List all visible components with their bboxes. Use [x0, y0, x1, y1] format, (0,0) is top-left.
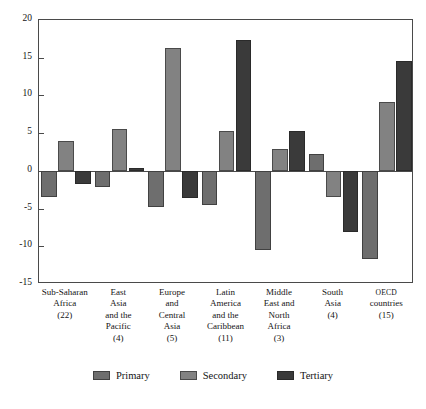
y-axis-tick-label: -5 [2, 203, 32, 213]
chart-legend: PrimarySecondaryTertiary [0, 370, 426, 381]
y-axis-tick-label: 20 [2, 14, 32, 24]
category-label-line: Caribbean [199, 321, 253, 332]
category-label-line: and the [92, 310, 146, 321]
category-label-line: Africa [252, 321, 306, 332]
legend-label: Secondary [203, 370, 247, 381]
bar [148, 171, 164, 207]
category-label-line: (4) [92, 333, 146, 344]
y-axis-tick-label: 15 [2, 52, 32, 62]
x-axis-category-label: LatinAmericaand theCaribbean(11) [199, 287, 253, 344]
category-label-line: (4) [306, 310, 360, 321]
category-label-line: OECD [359, 287, 413, 298]
category-label-line: Pacific [92, 321, 146, 332]
bar [112, 129, 128, 171]
bar-chart: 20151050-5-10-15 Sub-SaharanAfrica(22)Ea… [0, 0, 426, 409]
plot-area [38, 19, 413, 283]
category-label-line: countries [359, 298, 413, 309]
category-label-line: and [145, 298, 199, 309]
category-label-line: South [306, 287, 360, 298]
bar [289, 131, 305, 171]
x-axis-category-label: OECDcountries(15) [359, 287, 413, 321]
bar [129, 168, 145, 171]
category-label-line: (15) [359, 310, 413, 321]
category-label-line: Europe [145, 287, 199, 298]
category-label-line: and the [199, 310, 253, 321]
category-label-line: Central [145, 310, 199, 321]
bar [326, 171, 342, 197]
bar [75, 171, 91, 184]
legend-item[interactable]: Primary [93, 370, 150, 381]
bar [309, 154, 325, 171]
y-axis-tick-label: 10 [2, 89, 32, 99]
x-axis-category-label: MiddleEast andNorthAfrica(3) [252, 287, 306, 344]
x-axis-category-label: SouthAsia(4) [306, 287, 360, 321]
category-label-line: Asia [92, 298, 146, 309]
bar [362, 171, 378, 259]
legend-label: Primary [116, 370, 150, 381]
y-axis-tick-label: -10 [2, 240, 32, 250]
category-label-line: (5) [145, 333, 199, 344]
legend-label: Tertiary [300, 370, 333, 381]
category-label-line: (22) [38, 310, 92, 321]
bar [182, 171, 198, 198]
legend-swatch-icon [93, 371, 110, 380]
category-label-line: East and [252, 298, 306, 309]
category-label-line: (3) [252, 333, 306, 344]
bar [58, 141, 74, 171]
category-label-line: Latin [199, 287, 253, 298]
category-label-line: North [252, 310, 306, 321]
category-label-line: Asia [306, 298, 360, 309]
legend-swatch-icon [277, 371, 294, 380]
bar [202, 171, 218, 205]
bar [272, 149, 288, 171]
legend-item[interactable]: Tertiary [277, 370, 333, 381]
bar [236, 40, 252, 171]
y-axis-tick-label: -15 [2, 278, 32, 288]
category-label-line: Middle [252, 287, 306, 298]
bar [379, 102, 395, 171]
legend-item[interactable]: Secondary [180, 370, 247, 381]
category-label-line: Sub-Saharan [38, 287, 92, 298]
category-label-line: Africa [38, 298, 92, 309]
bar [255, 171, 271, 250]
y-axis-tick-label: 5 [2, 127, 32, 137]
category-label-line: Asia [145, 321, 199, 332]
bar [219, 131, 235, 171]
x-axis-category-label: EuropeandCentralAsia(5) [145, 287, 199, 344]
category-label-line: East [92, 287, 146, 298]
bar [165, 48, 181, 171]
bar [95, 171, 111, 188]
category-label-line: (11) [199, 333, 253, 344]
legend-swatch-icon [180, 371, 197, 380]
bars-layer [39, 20, 412, 282]
x-axis-category-label: EastAsiaand thePacific(4) [92, 287, 146, 344]
bar [396, 61, 412, 171]
bar [343, 171, 359, 232]
x-axis-category-labels: Sub-SaharanAfrica(22)EastAsiaand thePaci… [38, 287, 413, 357]
y-axis-tick-label: 0 [2, 165, 32, 175]
x-axis-category-label: Sub-SaharanAfrica(22) [38, 287, 92, 321]
bar [41, 171, 57, 197]
category-label-line: America [199, 298, 253, 309]
